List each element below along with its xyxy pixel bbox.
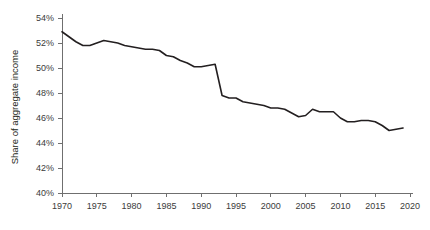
y-tick-label: 44% (36, 138, 54, 148)
line-chart: 40%42%44%46%48%50%52%54% 197019751980198… (0, 0, 430, 230)
y-tick-label: 40% (36, 188, 54, 198)
x-tick-label: 2000 (261, 201, 281, 211)
x-tick-label: 2015 (365, 201, 385, 211)
series-group (62, 32, 403, 131)
x-tick-label: 2005 (296, 201, 316, 211)
y-tick-label: 42% (36, 163, 54, 173)
x-axis-tick-labels: 1970197519801985199019952000200520102015… (52, 201, 420, 211)
y-tick-label: 46% (36, 113, 54, 123)
x-tick-label: 1990 (191, 201, 211, 211)
y-tick-label: 54% (36, 13, 54, 23)
x-tick-label: 1995 (226, 201, 246, 211)
x-tick-label: 1980 (122, 201, 142, 211)
y-tick-label: 48% (36, 88, 54, 98)
y-axis-group: 40%42%44%46%48%50%52%54% (36, 13, 62, 198)
chart-container: 40%42%44%46%48%50%52%54% 197019751980198… (0, 0, 430, 230)
x-axis-ticks (62, 193, 410, 197)
x-tick-label: 2020 (400, 201, 420, 211)
y-axis-title: Share of aggregate income (9, 50, 20, 165)
x-tick-label: 1970 (52, 201, 72, 211)
x-tick-label: 1975 (87, 201, 107, 211)
x-tick-label: 1985 (156, 201, 176, 211)
x-axis-group: 1970197519801985199019952000200520102015… (52, 193, 420, 211)
y-axis-ticks (58, 18, 62, 193)
series-line-0 (62, 32, 403, 131)
x-tick-label: 2010 (330, 201, 350, 211)
y-tick-label: 50% (36, 63, 54, 73)
y-axis-tick-labels: 40%42%44%46%48%50%52%54% (36, 13, 54, 198)
y-tick-label: 52% (36, 38, 54, 48)
